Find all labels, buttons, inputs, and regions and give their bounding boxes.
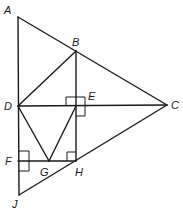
point-label-b: B: [72, 36, 79, 48]
point-label-h: H: [75, 166, 83, 178]
right-angle-mark-f-lower: [18, 161, 29, 171]
point-label-c: C: [171, 99, 179, 111]
segment-dc: [18, 105, 167, 106]
point-label-a: A: [3, 4, 11, 16]
point-label-d: D: [4, 100, 12, 112]
right-angle-mark-e-upper-right: [76, 97, 85, 106]
segment-jc: [19, 105, 167, 195]
point-label-j: J: [11, 198, 18, 210]
point-label-e: E: [88, 90, 96, 102]
right-angle-mark-h: [67, 152, 76, 161]
right-angle-mark-f: [18, 151, 29, 161]
geometry-diagram: ABCDEFGHJ: [0, 0, 183, 211]
segment-bd: [18, 51, 76, 106]
right-angle-mark-e-lower: [76, 106, 85, 116]
point-labels: ABCDEFGHJ: [3, 4, 179, 210]
segment-dg: [18, 106, 49, 161]
point-label-f: F: [5, 155, 13, 167]
segment-ge: [49, 106, 76, 161]
point-label-g: G: [40, 166, 49, 178]
right-angle-mark-e-upper: [66, 97, 76, 106]
